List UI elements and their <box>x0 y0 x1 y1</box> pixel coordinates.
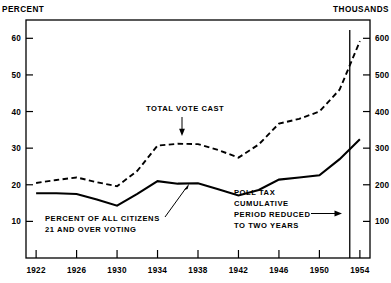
right-tick-label: 400 <box>375 108 390 117</box>
annotation-poll-tax-line1: POLL TAX <box>234 188 275 197</box>
left-tick-label: 40 <box>11 108 21 117</box>
right-axis-unit-label: THOUSANDS <box>333 5 389 14</box>
annotation-total-vote-cast: TOTAL VOTE CAST <box>146 104 224 136</box>
annotation-percent-citizens-line1: PERCENT OF ALL CITIZENS <box>45 214 160 223</box>
chart-figure: PERCENT THOUSANDS 102030405060 100200300… <box>0 0 391 283</box>
chart-svg: PERCENT THOUSANDS 102030405060 100200300… <box>0 0 391 283</box>
x-axis-ticks: 192219261930193419381942194619501954 <box>26 250 369 275</box>
x-tick-label: 1922 <box>26 266 46 275</box>
annotation-percent-citizens-voting: PERCENT OF ALL CITIZENS 21 AND OVER VOTI… <box>45 184 189 234</box>
right-tick-label: 500 <box>375 71 390 80</box>
right-axis-ticks: 100200300400500600 <box>363 34 390 226</box>
left-axis-ticks: 102030405060 <box>11 34 33 226</box>
series-percent-citizens-voting <box>36 139 360 205</box>
x-tick-label: 1930 <box>107 266 127 275</box>
series-total-vote-cast <box>36 41 360 186</box>
right-tick-label: 200 <box>375 181 390 190</box>
x-tick-label: 1954 <box>350 266 370 275</box>
annotation-poll-tax-line3: PERIOD REDUCED <box>234 210 310 219</box>
annotation-total-vote-cast-label: TOTAL VOTE CAST <box>146 104 224 113</box>
right-tick-label: 300 <box>375 144 390 153</box>
left-tick-label: 60 <box>11 34 21 43</box>
x-tick-label: 1950 <box>310 266 330 275</box>
x-tick-label: 1946 <box>269 266 289 275</box>
annotation-poll-tax-line4: TO TWO YEARS <box>234 221 299 230</box>
annotation-percent-citizens-line2: 21 AND OVER VOTING <box>45 225 136 234</box>
left-tick-label: 10 <box>11 217 21 226</box>
annotation-percent-citizens-leader <box>165 188 186 217</box>
left-tick-label: 20 <box>11 181 21 190</box>
annotation-poll-tax-line2: CUMULATIVE <box>234 199 289 208</box>
x-tick-label: 1938 <box>188 266 208 275</box>
left-axis-unit-label: PERCENT <box>2 5 44 14</box>
annotation-poll-tax: POLL TAX CUMULATIVE PERIOD REDUCED TO TW… <box>234 188 342 230</box>
left-tick-label: 30 <box>11 144 21 153</box>
right-tick-label: 100 <box>375 217 390 226</box>
x-tick-label: 1934 <box>148 266 168 275</box>
right-tick-label: 600 <box>375 34 390 43</box>
left-tick-label: 50 <box>11 71 21 80</box>
x-tick-label: 1926 <box>67 266 87 275</box>
arrow-down-icon <box>179 129 185 136</box>
x-tick-label: 1942 <box>229 266 249 275</box>
arrow-right-icon <box>335 210 343 216</box>
